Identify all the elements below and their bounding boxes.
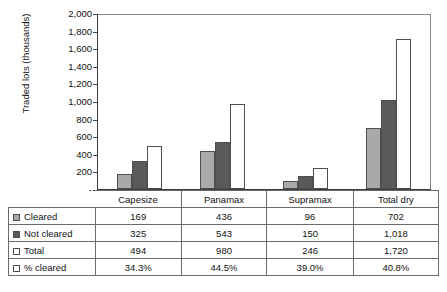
figure: Traded lots (thousands) 2,0001,8001,6001…: [0, 0, 447, 292]
table-row-label: % cleared: [9, 259, 96, 276]
table-cell: 494: [95, 242, 181, 259]
bar-notclear: [215, 142, 230, 189]
table-row-label-text: % cleared: [24, 262, 66, 273]
bar-group: [98, 15, 181, 189]
y-axis-tick-label: 1,000: [48, 97, 92, 107]
table-cell: 980: [181, 242, 267, 259]
table-column-header: Panamax: [181, 191, 267, 208]
bar-cleared: [283, 181, 298, 189]
table-row: Cleared16943696702: [9, 208, 439, 225]
y-axis-tick-label: 2,000: [48, 9, 92, 19]
table-cell: 702: [353, 208, 438, 225]
cleared-swatch-icon: [13, 214, 20, 221]
y-axis-tick-label: 800: [48, 115, 92, 125]
table-row: Not cleared3255431501,018: [9, 225, 439, 242]
bar-cleared: [366, 128, 381, 189]
table-column-header: Capesize: [95, 191, 181, 208]
notclear-swatch-icon: [13, 231, 20, 238]
table-column-header: Total dry: [353, 191, 438, 208]
table-corner-cell: [9, 191, 96, 208]
y-axis-tick-label: 200: [48, 167, 92, 177]
y-axis-tick-labels: 2,0001,8001,6001,4001,2001,0008006004002…: [48, 0, 92, 200]
y-axis-tick-label: 1,200: [48, 79, 92, 89]
bar-group: [347, 15, 430, 189]
table-row-label-text: Not cleared: [24, 228, 73, 239]
table-row: % cleared34.3%44.5%39.0%40.8%: [9, 259, 439, 276]
bar-cleared: [117, 174, 132, 189]
bar-total: [230, 104, 245, 189]
y-axis-tick-label: 1,800: [48, 27, 92, 37]
table-cell: 44.5%: [181, 259, 267, 276]
total-swatch-icon: [13, 248, 20, 255]
table-row-label-text: Cleared: [24, 211, 57, 222]
table-cell: 169: [95, 208, 181, 225]
table-cell: 150: [267, 225, 353, 242]
table-row: Total4949802461,720: [9, 242, 439, 259]
table-cell: 96: [267, 208, 353, 225]
plot-area: [97, 14, 431, 190]
bar-cleared: [200, 151, 215, 189]
y-axis-title: Traded lots (thousands): [20, 4, 31, 124]
table-row-label: Total: [9, 242, 96, 259]
table-cell: 40.8%: [353, 259, 438, 276]
bar-notclear: [132, 161, 147, 189]
table-row-label: Cleared: [9, 208, 96, 225]
data-table: CapesizePanamaxSupramaxTotal dryCleared1…: [8, 190, 439, 276]
table-header-row: CapesizePanamaxSupramaxTotal dry: [9, 191, 439, 208]
table-cell: 1,720: [353, 242, 438, 259]
y-axis-tick-label: 1,400: [48, 62, 92, 72]
bar-total: [396, 39, 411, 189]
table-cell: 436: [181, 208, 267, 225]
table-cell: 1,018: [353, 225, 438, 242]
y-axis-tick-label: 400: [48, 150, 92, 160]
bar-total: [147, 146, 162, 189]
bars-container: [98, 15, 430, 189]
bar-group: [181, 15, 264, 189]
bar-group: [264, 15, 347, 189]
pct-swatch-icon: [13, 265, 20, 272]
bar-notclear: [298, 176, 313, 189]
table-cell: 325: [95, 225, 181, 242]
table-cell: 246: [267, 242, 353, 259]
y-axis-tick-label: 600: [48, 132, 92, 142]
table-row-label-text: Total: [24, 245, 44, 256]
bar-notclear: [381, 100, 396, 189]
y-axis-tick-label: 1,600: [48, 44, 92, 54]
bar-total: [313, 168, 328, 189]
table-row-label: Not cleared: [9, 225, 96, 242]
table-cell: 543: [181, 225, 267, 242]
chart-plot-region: Traded lots (thousands) 2,0001,8001,6001…: [0, 0, 447, 200]
table-column-header: Supramax: [267, 191, 353, 208]
table-cell: 34.3%: [95, 259, 181, 276]
table-cell: 39.0%: [267, 259, 353, 276]
